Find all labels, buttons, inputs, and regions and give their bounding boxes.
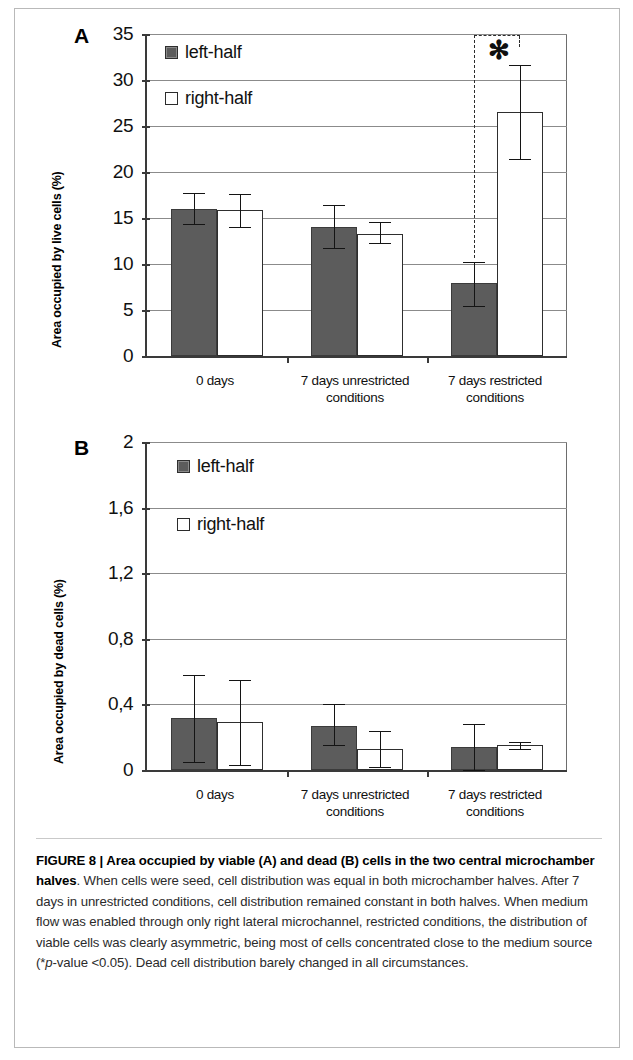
y-axis-tick-label: 0 <box>123 759 133 781</box>
legend-item-right-half: right-half <box>177 514 264 535</box>
y-axis-tick-label: 25 <box>113 115 133 137</box>
error-bar <box>194 675 195 762</box>
x-axis-category-label: 7 days unrestricted conditions <box>285 372 425 407</box>
error-bar-cap-lower <box>229 765 251 766</box>
gridline <box>147 508 567 509</box>
figure-page: A Area occupied by live cells (%) left-h… <box>0 0 633 1060</box>
y-axis-tick-mark <box>142 172 150 174</box>
legend-item-right-half: right-half <box>165 88 252 109</box>
y-axis-tick-mark <box>142 770 150 772</box>
error-bar <box>380 731 381 767</box>
caption-italic-p: p <box>45 955 52 970</box>
x-axis-tick-mark <box>427 770 429 777</box>
caption-body-part2: -value <0.05). Dead cell distribution ba… <box>53 955 469 970</box>
error-bar-cap-lower <box>369 243 391 244</box>
legend-swatch-right-half-icon <box>177 518 190 531</box>
y-axis-tick-label: 0,8 <box>108 628 133 650</box>
panel-b-letter: B <box>74 436 89 460</box>
y-axis-tick-mark <box>142 704 150 706</box>
error-bar-cap-upper <box>323 704 345 705</box>
y-axis-tick-label: 35 <box>113 23 133 45</box>
error-bar-cap-upper <box>509 742 531 743</box>
error-bar-cap-lower <box>463 306 485 307</box>
x-axis-category-label: 0 days <box>145 786 285 803</box>
panel-b-y-axis-title: Area occupied by dead cells (%) <box>52 579 66 764</box>
gridline <box>147 639 567 640</box>
error-bar-cap-lower <box>463 770 485 771</box>
error-bar-cap-upper <box>229 680 251 681</box>
y-axis-tick-mark <box>142 126 150 128</box>
legend-swatch-right-half-icon <box>165 92 178 105</box>
legend-item-left-half: left-half <box>165 42 241 63</box>
significance-bracket <box>474 35 520 258</box>
legend-swatch-left-half-icon <box>177 460 190 473</box>
error-bar-cap-lower <box>509 749 531 750</box>
bar-right-half <box>357 234 403 356</box>
error-bar-cap-lower <box>323 745 345 746</box>
y-axis-tick-mark <box>142 356 150 358</box>
bar-right-half <box>217 210 263 356</box>
y-axis-tick-mark <box>142 508 150 510</box>
error-bar-cap-lower <box>323 248 345 249</box>
error-bar <box>334 205 335 248</box>
y-axis-tick-mark <box>142 218 150 220</box>
error-bar-cap-lower <box>183 224 205 225</box>
error-bar <box>474 262 475 306</box>
gridline <box>147 704 567 705</box>
error-bar <box>334 704 335 745</box>
x-axis-tick-mark <box>427 356 429 363</box>
x-axis-category-label: 7 days unrestricted conditions <box>285 786 425 821</box>
bar-left-half <box>171 209 217 356</box>
y-axis-tick-mark <box>142 639 150 641</box>
error-bar <box>194 193 195 224</box>
x-axis-category-label: 7 days restricted conditions <box>425 786 565 821</box>
y-axis-tick-label: 0 <box>123 345 133 367</box>
y-axis-tick-label: 30 <box>113 69 133 91</box>
error-bar-cap-upper <box>463 724 485 725</box>
chart-panel-a: A Area occupied by live cells (%) left-h… <box>0 0 633 420</box>
y-axis-tick-label: 10 <box>113 253 133 275</box>
significance-asterisk: ✻ <box>488 37 510 63</box>
error-bar-cap-upper <box>183 193 205 194</box>
legend-label: right-half <box>185 88 252 109</box>
significance-bracket-stub <box>519 36 520 47</box>
y-axis-tick-label: 1,2 <box>108 562 133 584</box>
error-bar-cap-lower <box>183 762 205 763</box>
error-bar <box>520 65 521 159</box>
y-axis-tick-mark <box>142 442 150 444</box>
error-bar <box>240 680 241 765</box>
error-bar-cap-upper <box>183 675 205 676</box>
legend-label: left-half <box>185 42 241 63</box>
gridline <box>147 573 567 574</box>
legend-label: left-half <box>197 456 253 477</box>
error-bar-cap-lower <box>369 767 391 768</box>
y-axis-tick-mark <box>142 573 150 575</box>
error-bar-cap-lower <box>229 227 251 228</box>
y-axis-tick-label: 0,4 <box>108 693 133 715</box>
y-axis-tick-mark <box>142 264 150 266</box>
error-bar <box>474 724 475 770</box>
caption-figure-number: FIGURE 8 | <box>36 853 106 868</box>
y-axis-tick-mark <box>142 34 150 36</box>
panel-b-plot-area: left-halfright-half <box>145 442 567 772</box>
gridline <box>147 442 567 443</box>
error-bar-cap-upper <box>229 194 251 195</box>
y-axis-tick-label: 2 <box>123 431 133 453</box>
legend-swatch-left-half-icon <box>165 46 178 59</box>
panel-a-y-axis-title: Area occupied by live cells (%) <box>50 171 64 348</box>
x-axis-tick-mark <box>287 356 289 363</box>
caption-divider <box>36 838 602 839</box>
legend-item-left-half: left-half <box>177 456 253 477</box>
y-axis-tick-mark <box>142 310 150 312</box>
legend-label: right-half <box>197 514 264 535</box>
y-axis-tick-label: 5 <box>123 299 133 321</box>
error-bar-cap-upper <box>323 205 345 206</box>
x-axis-tick-mark <box>287 770 289 777</box>
error-bar-cap-upper <box>463 262 485 263</box>
error-bar-cap-upper <box>369 222 391 223</box>
y-axis-tick-label: 15 <box>113 207 133 229</box>
x-axis-category-label: 0 days <box>145 372 285 389</box>
y-axis-tick-label: 20 <box>113 161 133 183</box>
y-axis-tick-mark <box>142 80 150 82</box>
panel-a-letter: A <box>74 24 89 48</box>
